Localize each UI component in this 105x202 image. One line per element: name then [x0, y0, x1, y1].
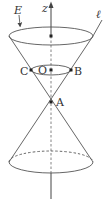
point-top-center	[50, 35, 53, 38]
label-b: B	[74, 65, 82, 78]
label-a: A	[55, 96, 65, 109]
z-axis-arrow-icon	[49, 2, 54, 9]
point-o	[50, 69, 53, 72]
line-l	[93, 20, 102, 36]
label-e: E	[13, 4, 22, 17]
point-a	[50, 101, 53, 104]
label-l: ℓ	[96, 8, 101, 21]
double-cone-diagram: z E ℓ O B C A	[0, 0, 105, 202]
z-axis	[49, 2, 54, 200]
label-z: z	[41, 2, 48, 15]
point-b	[70, 69, 73, 72]
label-o: O	[38, 64, 47, 77]
label-c: C	[20, 65, 28, 78]
point-c	[30, 69, 33, 72]
